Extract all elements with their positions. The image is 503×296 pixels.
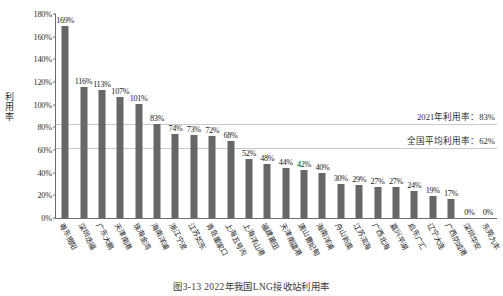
bar[interactable] [135,104,142,218]
bar[interactable] [117,97,124,218]
bar-value-label: 74% [168,124,182,133]
x-axis-label-slot: 舟山新奥 [332,220,350,278]
bar-value-label: 29% [352,175,366,184]
bar-value-label: 40% [315,163,329,172]
x-axis-label-slot: 天津南疆港 [277,220,295,278]
x-axis-label-slot: 上海五号沟 [221,220,239,278]
bar-value-label: 52% [242,149,256,158]
bar-group: 19% [424,14,442,218]
bar-group: 44% [277,14,295,218]
x-axis-label-slot: 东莞九丰 [479,220,497,278]
x-axis-label-slot: 江苏如东 [185,220,203,278]
bar-value-label: 72% [205,126,219,135]
bar-value-label: 101% [130,94,148,103]
x-axis-label-slot: 海南洋浦 [148,220,166,278]
x-axis-labels: 粤东揭阳深圳迭福广东大鹏天津南港珠海金湾海南洋浦浙江宁波江苏如东青岛董家口上海五… [56,220,497,278]
plot-area: 0%20%40%60%80%100%120%140%160%180% 2021年… [56,14,497,218]
bar[interactable] [62,26,69,218]
bar[interactable] [190,135,197,218]
x-axis-label-slot: 辽宁大连 [424,220,442,278]
bar-group: 0% [479,14,497,218]
x-axis-label-slot: 深圳华安 [460,220,478,278]
bar-group: 72% [203,14,221,218]
bar[interactable] [319,173,326,218]
x-axis-label: 东莞九丰 [480,221,503,251]
bar[interactable] [356,185,363,218]
bar-group: 101% [130,14,148,218]
bar[interactable] [448,199,455,218]
bar[interactable] [282,168,289,218]
bar-value-label: 73% [187,125,201,134]
bar-value-label: 68% [224,131,238,140]
bar[interactable] [264,164,271,218]
x-axis-label-slot: 上海洋山港 [240,220,258,278]
bar[interactable] [392,187,399,218]
bar-value-label: 30% [334,174,348,183]
bar-value-label: 44% [279,158,293,167]
bar-group: 48% [258,14,276,218]
x-axis-label-slot: 启东广汇 [405,220,423,278]
figure-caption: 图3-13 2022年我国LNG接收站利用率 [0,279,503,293]
bar-value-label: 24% [407,181,421,190]
bar[interactable] [337,184,344,218]
x-axis-label-slot: 广西北海 [368,220,386,278]
chart-figure: 利用率 0%20%40%60%80%100%120%140%160%180% 2… [0,0,503,296]
x-axis-label-slot: 天津南港 [111,220,129,278]
y-axis-title: 利用率 [3,92,16,122]
x-axis-label-slot: 浙江宁波 [166,220,184,278]
x-axis-label-slot: 江苏滨海 [350,220,368,278]
bar-group: 107% [111,14,129,218]
bar-group: 29% [350,14,368,218]
x-axis-label-slot: 福建莆田 [258,220,276,278]
bar-value-label: 17% [444,189,458,198]
bar-value-label: 19% [426,186,440,195]
bar-group: 169% [56,14,74,218]
bar[interactable] [80,87,87,218]
bar[interactable] [374,187,381,218]
x-axis-line [55,218,497,219]
x-axis-label-slot: 珠海金湾 [130,220,148,278]
bar-value-label: 0% [464,208,474,217]
bar-value-label: 169% [56,16,74,25]
bar[interactable] [301,170,308,218]
bar-value-label: 116% [75,77,93,86]
bar-series: 169%116%113%107%101%83%74%73%72%68%52%48… [56,14,497,218]
bar[interactable] [411,191,418,218]
bar-group: 27% [387,14,405,218]
bar-group: 24% [405,14,423,218]
bar-group: 40% [313,14,331,218]
bar-value-label: 107% [111,87,129,96]
bar-group: 74% [166,14,184,218]
x-axis-label-slot: 青岛董家口 [203,220,221,278]
bar[interactable] [429,196,436,218]
bar[interactable] [209,136,216,218]
bar[interactable] [227,141,234,218]
bar-group: 17% [442,14,460,218]
x-axis-label-slot: 海南洋浦 [313,220,331,278]
bar[interactable] [245,159,252,218]
bar[interactable] [154,124,161,218]
bar-value-label: 48% [260,154,274,163]
bar-group: 52% [240,14,258,218]
bar[interactable] [98,90,105,218]
x-axis-label-slot: 深圳迭福 [74,220,92,278]
bar-group: 0% [460,14,478,218]
bar-value-label: 0% [483,208,493,217]
bar-value-label: 27% [371,177,385,186]
bar-value-label: 42% [297,160,311,169]
x-axis-label-slot: 嘉兴平湖 [387,220,405,278]
x-axis-label-slot: 粤东揭阳 [56,220,74,278]
bar-value-label: 27% [389,177,403,186]
bar-group: 42% [295,14,313,218]
bar[interactable] [172,134,179,218]
bar-group: 27% [368,14,386,218]
bar-value-label: 83% [150,114,164,123]
bar-group: 83% [148,14,166,218]
bar-group: 116% [74,14,92,218]
bar-group: 113% [93,14,111,218]
bar-group: 73% [185,14,203,218]
x-axis-label-slot: 广东大鹏 [93,220,111,278]
x-axis-label-slot: 唐山曹妃甸 [295,220,313,278]
bar-value-label: 113% [93,80,111,89]
bar-group: 68% [221,14,239,218]
